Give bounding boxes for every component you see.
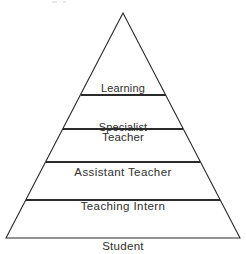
pyramid-outline-triangle [6,13,240,238]
